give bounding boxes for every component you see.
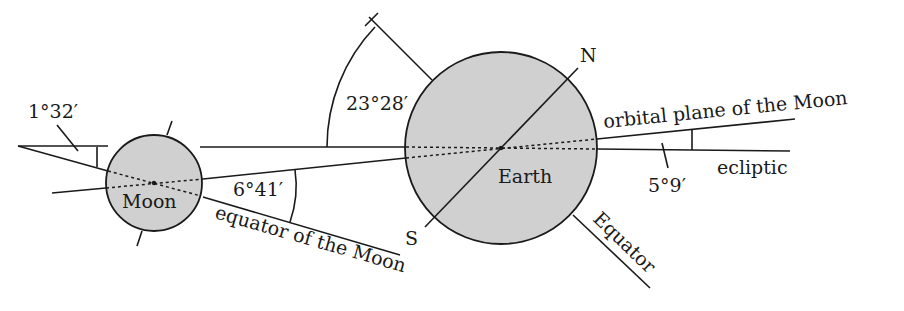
moon-center-dot [152, 181, 156, 185]
moon-axis-tick-bottom [137, 231, 142, 246]
moon-axis-tick-top [167, 121, 172, 135]
angle-obliquity-label: 23°28′ [346, 92, 408, 114]
earth-equator-label: Equator [589, 207, 661, 277]
ecliptic-label: ecliptic [717, 156, 788, 178]
obliquity-arc [327, 27, 375, 147]
ecliptic-line-right [597, 149, 790, 151]
earth-label: Earth [498, 165, 552, 187]
orbital-plane-line-left [52, 188, 106, 193]
moon-equator-label: equator of the Moon [213, 201, 409, 277]
angle-5-9-pointer [662, 143, 668, 168]
moon-label: Moon [122, 190, 177, 212]
angle-1-32-pointer [57, 125, 78, 151]
angle-6-41-arc [290, 170, 296, 222]
angle-5-9-label: 5°9′ [648, 174, 686, 196]
earth-equator-line-upper [369, 17, 432, 80]
south-pole-label: S [405, 227, 418, 249]
earth-center-dot [499, 146, 503, 150]
north-pole-label: N [580, 44, 597, 66]
orbital-plane-line-middle [203, 158, 406, 179]
orbital-plane-label: orbital plane of the Moon [602, 86, 848, 132]
angle-1-32-label: 1°32′ [28, 100, 78, 122]
moon-earth-planes-diagram: Moon Earth N S 23°28′ 1°32′ 6°41′ 5°9′ e… [0, 0, 904, 311]
angle-6-41-label: 6°41′ [233, 178, 283, 200]
moon-equator-line-left [18, 146, 108, 171]
